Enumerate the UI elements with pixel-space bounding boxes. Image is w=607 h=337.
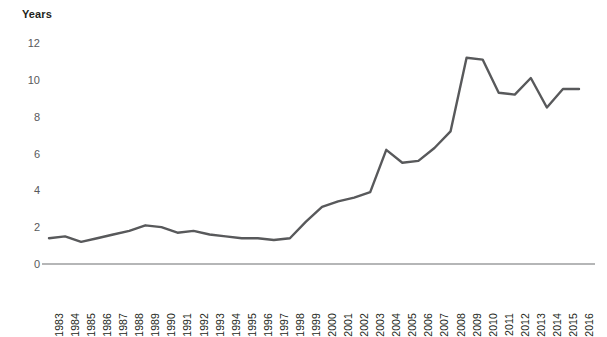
x-axis-tick-label: 1999 [310, 313, 322, 337]
x-axis-tick-label: 1998 [294, 313, 306, 337]
x-axis-tick-label: 2003 [374, 313, 386, 337]
x-axis-tick-label: 1994 [230, 313, 242, 337]
x-axis-tick-label: 1996 [262, 313, 274, 337]
x-axis-tick-label: 2015 [567, 313, 579, 337]
x-axis-tick-label: 1995 [246, 313, 258, 337]
x-axis-tick-label: 2012 [519, 313, 531, 337]
x-axis-tick-label: 1988 [133, 313, 145, 337]
x-axis-tick-label: 2010 [487, 313, 499, 337]
x-axis-tick-label: 1997 [278, 313, 290, 337]
x-axis-tick-label: 1984 [69, 313, 81, 337]
x-axis-tick-label: 2014 [551, 313, 563, 337]
x-axis-tick-label: 2002 [358, 313, 370, 337]
x-axis-tick-label: 1993 [214, 313, 226, 337]
x-axis-tick-label: 2004 [390, 313, 402, 337]
x-axis-tick-label: 2011 [503, 313, 515, 336]
x-axis-tick-label: 1986 [101, 313, 113, 337]
x-axis-tick-label: 2006 [422, 313, 434, 337]
x-axis-tick-label: 1987 [117, 313, 129, 337]
x-axis-tick-label: 1990 [165, 313, 177, 337]
x-axis-tick-label: 1989 [149, 313, 161, 337]
x-axis-tick-label: 1983 [53, 313, 65, 337]
x-axis-tick-label: 1991 [181, 313, 193, 337]
x-axis-tick-label: 2000 [326, 313, 338, 337]
x-axis-tick-label: 2009 [471, 313, 483, 337]
x-axis-tick-label: 2007 [438, 313, 450, 337]
x-axis-tick-label: 1985 [85, 313, 97, 337]
x-axis-tick-labels: 1983198419851986198719881989199019911992… [0, 269, 607, 318]
x-axis-tick-label: 2008 [455, 313, 467, 337]
x-axis-tick-label: 2016 [583, 313, 595, 337]
x-axis-tick-label: 2005 [406, 313, 418, 337]
x-axis-tick-label: 2013 [535, 313, 547, 337]
x-axis-tick-label: 2001 [342, 313, 354, 337]
x-axis-tick-label: 1992 [198, 313, 210, 337]
data-series-line [49, 58, 579, 242]
